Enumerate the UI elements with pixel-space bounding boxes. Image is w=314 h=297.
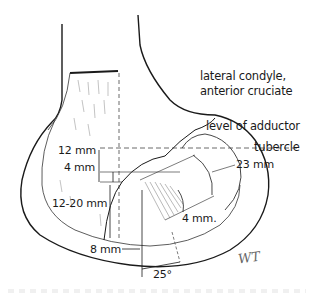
artist-signature: WT bbox=[237, 249, 261, 267]
label-anterior-cruciate: anterior cruciate bbox=[200, 85, 292, 98]
measure-8mm: 8 mm bbox=[90, 243, 121, 256]
condyle-inner bbox=[182, 134, 241, 210]
femur-outline bbox=[21, 15, 269, 267]
label-tubercle: tubercle bbox=[254, 141, 300, 154]
measure-4mm-right: 4 mm. bbox=[182, 212, 216, 225]
measure-12mm: 12 mm bbox=[58, 144, 96, 157]
measure-23mm: 23 mm bbox=[236, 158, 274, 171]
leader-23mm bbox=[212, 165, 235, 172]
intercondylar-line bbox=[122, 118, 215, 182]
plateau-edge bbox=[70, 71, 118, 73]
measure-12-20mm: 12-20 mm bbox=[52, 197, 107, 210]
measure-angle-25: 25° bbox=[153, 268, 172, 281]
label-lateral-condyle: lateral condyle, bbox=[200, 70, 286, 83]
arc-23mm bbox=[193, 155, 212, 195]
bleed-through-text bbox=[8, 289, 306, 293]
inner-cortex bbox=[42, 120, 240, 246]
ray-upper bbox=[140, 155, 195, 180]
label-adductor-level: level of adductor bbox=[206, 120, 300, 133]
femur-diagram: lateral condyle, anterior cruciate level… bbox=[0, 0, 314, 297]
measure-4mm-left: 4 mm bbox=[64, 161, 95, 174]
angle-ray bbox=[172, 232, 180, 262]
notch-curve bbox=[104, 182, 122, 240]
plateau-left-edge bbox=[48, 73, 70, 130]
